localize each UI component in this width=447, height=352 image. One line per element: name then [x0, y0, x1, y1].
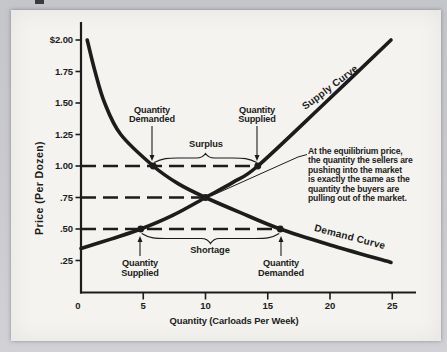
key-point-dot: [277, 226, 284, 233]
y-tick-label: $2.00: [50, 34, 73, 45]
surplus-brace: [154, 154, 257, 163]
x-tick-label: 0: [75, 300, 80, 311]
callout-label-line: Quantity: [134, 105, 171, 115]
callout-label: QuantitySupplied: [238, 105, 276, 125]
callout-label-line: Supplied: [121, 268, 159, 278]
y-tick-label: 1.50: [55, 97, 73, 108]
y-tick-label: 1.75: [55, 66, 74, 77]
key-point-dot: [150, 163, 157, 170]
y-tick-label: .25: [60, 255, 74, 266]
y-tick-label: 1.25: [55, 129, 74, 140]
shortage-label: Shortage: [190, 245, 230, 255]
x-tick-label: 5: [141, 300, 147, 311]
callout-arrowhead: [255, 155, 260, 161]
x-axis-title: Quantity (Carloads Per Week): [170, 315, 299, 326]
key-point-dot: [202, 194, 209, 201]
key-point-dot: [137, 226, 144, 233]
callout-label: QuantityDemanded: [129, 105, 175, 125]
y-tick-label: 1.00: [55, 160, 73, 171]
y-tick-label: .75: [60, 192, 74, 203]
key-point-dot: [254, 163, 261, 170]
shortage-brace: [142, 234, 279, 244]
supply-curve-label: Supply Curve: [300, 63, 360, 112]
callout-label-line: Quantity: [239, 105, 276, 115]
x-tick-label: 25: [387, 300, 398, 311]
callout-label: QuantityDemanded: [258, 258, 304, 278]
y-tick-label: .50: [60, 223, 73, 234]
callout-arrowhead: [150, 155, 155, 161]
x-tick-label: 15: [262, 300, 273, 311]
callout-label: QuantitySupplied: [121, 258, 159, 278]
callout-arrowhead: [138, 236, 143, 242]
callout-arrowhead: [279, 236, 284, 242]
callout-label-line: Quantity: [122, 258, 159, 268]
surplus-label: Surplus: [189, 139, 223, 149]
callout-label-line: Supplied: [238, 114, 276, 124]
callout-label-line: Quantity: [263, 258, 300, 268]
x-tick-label: 20: [325, 300, 336, 311]
callout-label-line: Demanded: [258, 268, 304, 278]
y-axis-title: Price (Per Dozen): [33, 141, 45, 235]
x-tick-label: 10: [200, 300, 211, 311]
scan-background: $2.001.751.501.251.00.75.50.250510152025…: [0, 0, 447, 352]
callout-label-line: Demanded: [129, 114, 175, 124]
equilibrium-annotation: At the equilibrium price, the quantity t…: [308, 147, 413, 204]
demand-curve-label: Demand Curve: [313, 222, 387, 251]
annotation-leader-line: [211, 155, 307, 197]
